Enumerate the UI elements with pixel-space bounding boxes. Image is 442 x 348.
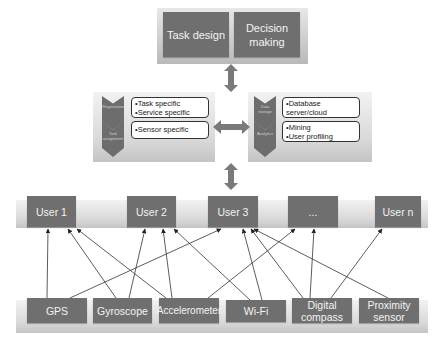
- double-arrow-icon: [224, 163, 238, 190]
- double-arrow-icon: [224, 64, 238, 92]
- double-arrow-icon: [213, 120, 250, 134]
- connection-lines: [47, 229, 388, 300]
- connections-layer: [0, 0, 442, 348]
